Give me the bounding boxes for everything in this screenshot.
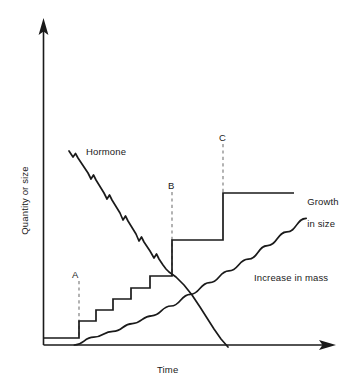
figure-root: Quantity or size Time Hormone Growth in … [0, 0, 350, 388]
increase-in-mass-label: Increase in mass [254, 272, 328, 283]
y-axis-label: Quantity or size [19, 136, 30, 266]
growth-in-size-step-path [44, 193, 294, 338]
marker-b-label: B [168, 180, 175, 191]
growth-in-size-label: Growth in size [296, 185, 348, 240]
growth-in-size-label-line1: Growth [307, 196, 339, 207]
hormone-series [69, 151, 228, 347]
hormone-saw-tooth-path [69, 151, 228, 347]
hormone-curve-label: Hormone [86, 146, 126, 157]
axes-group [39, 18, 336, 350]
marker-c-label: C [219, 132, 226, 143]
growth-in-size-label-line2: in size [307, 218, 335, 229]
x-axis-label: Time [157, 364, 178, 375]
marker-a-label: A [72, 269, 79, 280]
growth-in-size-series [44, 193, 294, 338]
